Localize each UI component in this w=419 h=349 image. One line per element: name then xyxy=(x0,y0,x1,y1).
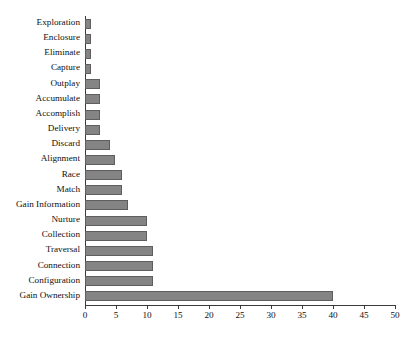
x-axis-tick xyxy=(333,305,334,309)
x-axis-tick xyxy=(271,305,272,309)
bar xyxy=(85,110,100,120)
bar-row: Collection xyxy=(85,228,395,243)
bar-row: Nurture xyxy=(85,213,395,228)
x-axis-tick xyxy=(364,305,365,309)
bar xyxy=(85,94,100,104)
category-label: Capture xyxy=(51,60,80,75)
x-axis-tick xyxy=(302,305,303,309)
bar xyxy=(85,34,91,44)
x-axis-tick-label: 25 xyxy=(235,310,244,320)
x-axis-tick-label: 5 xyxy=(114,310,119,320)
x-axis-tick-label: 50 xyxy=(390,310,399,320)
bar xyxy=(85,231,147,241)
bar-row: Configuration xyxy=(85,274,395,289)
bar xyxy=(85,291,333,301)
bar-row: Outplay xyxy=(85,77,395,92)
x-axis-tick-label: 40 xyxy=(328,310,337,320)
bar xyxy=(85,276,153,286)
category-label: Connection xyxy=(38,258,80,273)
x-axis-tick xyxy=(395,305,396,309)
bar xyxy=(85,125,100,135)
category-label: Accomplish xyxy=(36,106,80,121)
bar-row: Connection xyxy=(85,259,395,274)
category-label: Gain Information xyxy=(16,197,80,212)
category-label: Alignment xyxy=(41,151,80,166)
bar-row: Alignment xyxy=(85,152,395,167)
bar-row: Race xyxy=(85,168,395,183)
bar-row: Exploration xyxy=(85,16,395,31)
category-label: Exploration xyxy=(37,15,80,30)
bar-row: Eliminate xyxy=(85,46,395,61)
bar xyxy=(85,64,91,74)
category-label: Enclosure xyxy=(43,30,80,45)
bar-chart: ExplorationEnclosureEliminateCaptureOutp… xyxy=(0,0,419,349)
category-label: Nurture xyxy=(51,212,80,227)
bar-row: Discard xyxy=(85,137,395,152)
x-axis-tick-label: 0 xyxy=(83,310,88,320)
category-label: Delivery xyxy=(48,121,80,136)
bar-row: Match xyxy=(85,183,395,198)
category-label: Traversal xyxy=(46,242,80,257)
x-axis-tick-label: 15 xyxy=(173,310,182,320)
bar-row: Gain Information xyxy=(85,198,395,213)
x-axis-tick-label: 45 xyxy=(359,310,368,320)
x-axis-tick xyxy=(116,305,117,309)
bar-row: Accumulate xyxy=(85,92,395,107)
bar-row: Accomplish xyxy=(85,107,395,122)
category-label: Eliminate xyxy=(44,45,80,60)
bar xyxy=(85,185,122,195)
category-label: Accumulate xyxy=(36,91,80,106)
category-label: Discard xyxy=(51,136,80,151)
x-axis-tick xyxy=(209,305,210,309)
bar-row: Capture xyxy=(85,61,395,76)
x-axis-tick-label: 30 xyxy=(266,310,275,320)
x-axis-tick xyxy=(85,305,86,309)
x-axis-tick-label: 35 xyxy=(297,310,306,320)
bar-row: Traversal xyxy=(85,243,395,258)
bar xyxy=(85,155,115,165)
category-label: Outplay xyxy=(50,76,80,91)
bar xyxy=(85,79,100,89)
bar xyxy=(85,246,153,256)
x-axis-tick-label: 10 xyxy=(142,310,151,320)
category-label: Gain Ownership xyxy=(20,288,80,303)
category-label: Match xyxy=(57,182,80,197)
plot-area: ExplorationEnclosureEliminateCaptureOutp… xyxy=(85,16,395,304)
bar xyxy=(85,19,91,29)
category-label: Race xyxy=(62,167,80,182)
bar xyxy=(85,216,147,226)
bar xyxy=(85,49,91,59)
bar-row: Delivery xyxy=(85,122,395,137)
x-axis-tick xyxy=(147,305,148,309)
x-axis-tick-label: 20 xyxy=(204,310,213,320)
x-axis-tick xyxy=(240,305,241,309)
bar xyxy=(85,170,122,180)
x-axis-tick xyxy=(178,305,179,309)
category-label: Configuration xyxy=(28,273,80,288)
bar xyxy=(85,140,110,150)
bar xyxy=(85,200,128,210)
bar xyxy=(85,261,153,271)
category-label: Collection xyxy=(42,227,80,242)
bar-row: Enclosure xyxy=(85,31,395,46)
bar-row: Gain Ownership xyxy=(85,289,395,304)
